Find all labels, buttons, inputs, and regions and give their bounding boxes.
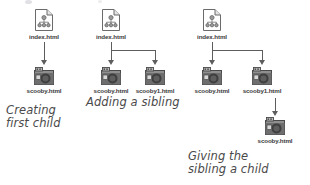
node-label: index.html — [180, 33, 244, 41]
node-index-html[interactable]: index.html — [180, 8, 244, 41]
node-scooby-html-grandchild[interactable]: scooby.html — [243, 116, 307, 145]
node-index-html[interactable]: index.html — [12, 8, 76, 41]
scan-artifact — [98, 0, 102, 3]
node-label: scooby1.html — [230, 87, 294, 95]
diagram-canvas: index.html scooby.html — [0, 0, 310, 185]
node-scooby1-html[interactable]: scooby1.html — [230, 66, 294, 95]
node-label: scooby1.html — [123, 87, 187, 95]
group-caption: Adding a sibling — [86, 96, 180, 109]
node-scooby-html[interactable]: scooby.html — [12, 66, 76, 95]
node-scooby1-html[interactable]: scooby1.html — [123, 66, 187, 95]
media-file-icon — [123, 66, 187, 86]
node-index-html[interactable]: index.html — [79, 8, 143, 41]
html-page-icon — [79, 8, 143, 32]
group-caption: Giving the sibling a child — [188, 150, 269, 176]
media-file-icon — [12, 66, 76, 86]
node-label: index.html — [79, 33, 143, 41]
node-label: scooby.html — [12, 87, 76, 95]
node-label: scooby.html — [243, 137, 307, 145]
media-file-icon — [243, 116, 307, 136]
scan-artifact — [25, 0, 32, 4]
html-page-icon — [180, 8, 244, 32]
node-label: index.html — [12, 33, 76, 41]
media-file-icon — [230, 66, 294, 86]
html-page-icon — [12, 8, 76, 32]
group-caption: Creating first child — [6, 104, 61, 130]
